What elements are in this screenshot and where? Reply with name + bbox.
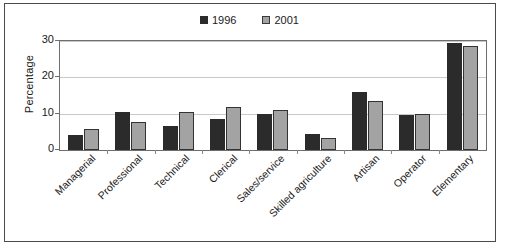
bar-group [202, 41, 249, 150]
bar-1996 [305, 134, 320, 150]
bar-group [297, 41, 344, 150]
bar-2001 [415, 114, 430, 150]
bar-group [344, 41, 391, 150]
bar-1996 [399, 115, 414, 150]
bar-2001 [321, 138, 336, 150]
bar-2001 [226, 107, 241, 150]
y-tick-label: 10 [28, 106, 54, 118]
bar-1996 [210, 119, 225, 150]
x-axis-label: Elementary [430, 152, 476, 198]
bar-group [391, 41, 438, 150]
bar-2001 [179, 112, 194, 150]
bar-2001 [131, 122, 146, 150]
x-axis-label: Clerical [206, 152, 239, 185]
y-tick-mark [55, 149, 59, 150]
plot-area [59, 40, 487, 151]
legend-label-2001: 2001 [274, 14, 298, 26]
bar-1996 [447, 43, 462, 150]
x-axis-label: Professional [95, 152, 144, 201]
y-tick-mark [55, 40, 59, 41]
legend-swatch-1996-icon [200, 16, 208, 24]
y-tick-mark [55, 76, 59, 77]
bar-1996 [115, 112, 130, 150]
bar-2001 [368, 101, 383, 150]
legend-swatch-2001-icon [262, 16, 270, 24]
bar-2001 [463, 46, 478, 150]
chart-legend: 1996 2001 [200, 12, 400, 28]
bar-2001 [273, 110, 288, 150]
y-tick-label: 20 [28, 69, 54, 81]
bar-1996 [352, 92, 367, 150]
bar-2001 [84, 129, 99, 150]
bar-1996 [68, 135, 83, 150]
legend-item-1996: 1996 [200, 14, 236, 26]
bar-group [107, 41, 154, 150]
x-axis-label: Managerial [52, 152, 97, 197]
y-tick-label: 0 [28, 142, 54, 154]
bar-1996 [257, 114, 272, 150]
bar-group [249, 41, 296, 150]
x-axis-label: Technical [152, 152, 191, 191]
bar-group [155, 41, 202, 150]
chart-figure: 1996 2001 Percentage 0102030 ManagerialP… [0, 0, 506, 252]
bar-1996 [163, 126, 178, 150]
bar-group [439, 41, 486, 150]
bar-series-container [60, 41, 486, 150]
bar-group [60, 41, 107, 150]
y-tick-label: 30 [28, 33, 54, 45]
x-axis-label: Operator [391, 152, 429, 190]
x-axis-label: Artisan [350, 152, 382, 184]
y-tick-mark [55, 113, 59, 114]
legend-item-2001: 2001 [262, 14, 298, 26]
x-axis-labels: ManagerialProfessionalTechnicalClericalS… [59, 152, 487, 230]
legend-label-1996: 1996 [212, 14, 236, 26]
